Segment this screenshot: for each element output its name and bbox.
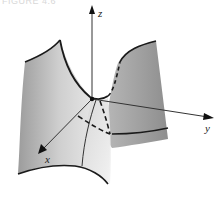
x-axis-label: x bbox=[44, 153, 50, 165]
surface-right-wing bbox=[104, 41, 168, 148]
z-axis-label: z bbox=[97, 7, 103, 19]
origin-point bbox=[90, 97, 94, 101]
y-axis-label: y bbox=[204, 122, 210, 134]
saddle-surface-figure: z y x bbox=[0, 0, 223, 199]
y-axis-arrowhead bbox=[203, 113, 214, 120]
z-axis-arrowhead bbox=[89, 5, 95, 14]
